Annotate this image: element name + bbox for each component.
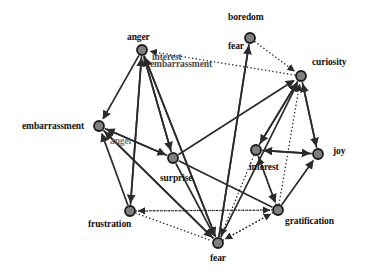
edge-curiosity-to-joy <box>302 82 316 146</box>
label-fear-top: fear <box>228 42 244 52</box>
node-embarrassment[interactable] <box>94 121 104 131</box>
node-joy[interactable] <box>313 149 323 159</box>
node-label-boredom: boredom <box>228 13 264 23</box>
label-anger-mid: anger <box>110 137 133 147</box>
node-anger[interactable] <box>137 45 147 55</box>
node-label-fear: fear <box>210 254 226 264</box>
node-label-joy: joy <box>333 147 345 157</box>
edge-anger-to-frustration <box>131 56 142 202</box>
edge-fear-to-boredom <box>219 46 249 237</box>
edge-anger-to-surprise <box>144 56 171 150</box>
node-frustration[interactable] <box>125 206 135 216</box>
edge-gratification-to-joy <box>282 161 314 205</box>
node-label-interest: interest <box>249 163 279 173</box>
emotion-transition-graph: angerboredomcuriosityembarrassmentsurpri… <box>0 0 368 279</box>
node-label-frustration: frustration <box>88 220 131 230</box>
node-surprise[interactable] <box>168 153 178 163</box>
node-interest[interactable] <box>251 145 261 155</box>
node-gratification[interactable] <box>273 205 283 215</box>
node-boredom[interactable] <box>245 33 255 43</box>
edge-boredom-to-curiosity <box>255 42 294 71</box>
node-label-gratification: gratification <box>285 217 334 227</box>
label-embarrassment-top: embarrassment <box>150 60 212 70</box>
node-fear[interactable] <box>213 238 223 248</box>
node-label-surprise: surprise <box>160 174 192 184</box>
edge-anger-to-fear <box>144 56 215 235</box>
edge-anger-to-embarrassment <box>103 55 139 118</box>
node-curiosity[interactable] <box>296 71 306 81</box>
node-label-curiosity: curiosity <box>312 58 346 68</box>
node-label-anger: anger <box>127 33 150 43</box>
node-label-embarrassment: embarrassment <box>22 122 84 132</box>
edge-gratification-to-curiosity <box>279 84 300 204</box>
graph-canvas <box>0 0 368 279</box>
